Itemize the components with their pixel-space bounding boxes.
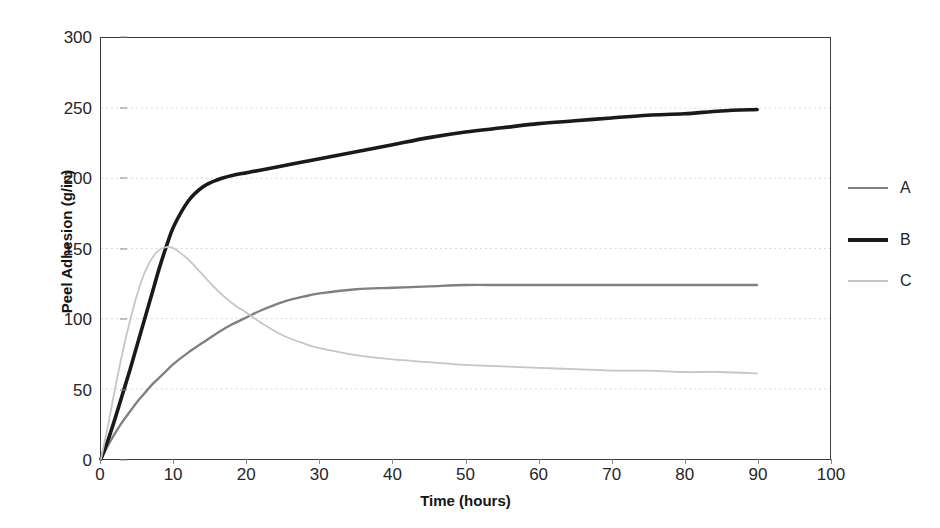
x-tick-label: 0 <box>70 466 130 483</box>
y-tick-label: 300 <box>38 29 92 46</box>
legend-label-b: B <box>900 232 911 248</box>
x-tick-label: 70 <box>582 466 642 483</box>
x-tick-label: 30 <box>289 466 349 483</box>
x-tick-mark <box>173 459 174 464</box>
x-tick-mark <box>392 459 393 464</box>
y-axis-title: Peel Adhesion (g/in) <box>58 112 75 372</box>
legend-label-c: C <box>900 273 912 289</box>
plot-area <box>100 37 831 460</box>
x-tick-mark <box>466 459 467 464</box>
x-tick-mark <box>831 459 832 464</box>
x-axis-title: Time (hours) <box>100 492 831 509</box>
y-tick-mark <box>120 389 127 390</box>
legend-item-a[interactable]: A <box>848 178 911 198</box>
legend-swatch-c <box>848 280 888 282</box>
x-tick-label: 100 <box>801 466 861 483</box>
series-line-a <box>101 285 757 459</box>
y-tick-mark <box>120 248 127 249</box>
x-tick-mark <box>246 459 247 464</box>
x-tick-label: 80 <box>655 466 715 483</box>
x-tick-mark <box>612 459 613 464</box>
y-tick-mark <box>120 37 127 38</box>
legend-label-a: A <box>900 180 911 196</box>
y-tick-mark <box>120 460 127 461</box>
legend-item-b[interactable]: B <box>848 230 911 250</box>
x-tick-mark <box>100 459 101 464</box>
x-tick-mark <box>319 459 320 464</box>
legend-item-c[interactable]: C <box>848 271 912 291</box>
x-axis-ticks: 0102030405060708090100 <box>100 464 831 494</box>
x-tick-mark <box>758 459 759 464</box>
series-line-c <box>101 247 757 459</box>
y-tick-mark <box>120 319 127 320</box>
x-tick-label: 20 <box>216 466 276 483</box>
y-tick-label: 50 <box>38 381 92 398</box>
series-lines <box>101 38 830 459</box>
legend-swatch-b <box>848 238 888 242</box>
x-tick-mark <box>539 459 540 464</box>
chart-figure: 050100150200250300 010203040506070809010… <box>0 0 940 528</box>
y-tick-mark <box>120 107 127 108</box>
legend-swatch-a <box>848 187 888 189</box>
y-tick-mark <box>120 178 127 179</box>
x-tick-label: 40 <box>362 466 422 483</box>
x-tick-label: 60 <box>509 466 569 483</box>
x-tick-label: 50 <box>436 466 496 483</box>
x-tick-label: 10 <box>143 466 203 483</box>
x-tick-mark <box>685 459 686 464</box>
x-tick-label: 90 <box>728 466 788 483</box>
